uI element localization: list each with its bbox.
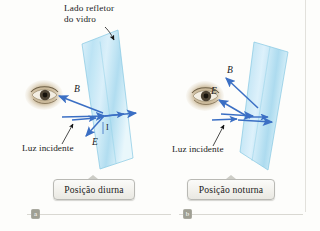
- caption-plate-panel-b: Posição noturna: [187, 179, 275, 200]
- incident-light-label-panel-b: Luz incidente: [172, 144, 224, 154]
- caption-text-panel-b: Posição noturna: [199, 184, 264, 195]
- panel-badge-b: b: [183, 209, 192, 219]
- ray-label-b-panel-a: B: [74, 84, 80, 94]
- eye-illustration-b: [186, 81, 224, 111]
- panel-rule-b: [179, 214, 303, 215]
- ray-label-b-panel-b: B: [227, 65, 233, 75]
- panel-a-glass: [82, 30, 133, 169]
- panel-badge-a-text: a: [34, 211, 37, 218]
- angle-label-panel-a: I: [106, 123, 109, 132]
- incident-leader-b: [213, 125, 224, 146]
- figure-root: Lado refletor do vidro B E I Luz inciden…: [0, 0, 320, 231]
- ray-label-e-panel-b: E: [211, 86, 217, 96]
- callout-title-reflective-side: Lado refletor do vidro: [64, 3, 146, 24]
- incident-leader-a: [62, 124, 73, 144]
- panel-b-glass: [240, 42, 288, 170]
- caption-text-panel-a: Posição diurna: [64, 184, 124, 195]
- panel-badge-b-text: b: [186, 211, 190, 218]
- page-gutter-rule: [305, 0, 306, 212]
- panel-badge-a: a: [31, 209, 40, 219]
- ray-label-e-panel-a: E: [92, 137, 98, 147]
- incident-light-label-panel-a: Luz incidente: [22, 143, 74, 153]
- caption-plate-panel-a: Posição diurna: [53, 179, 135, 200]
- panel-rule-a: [27, 214, 171, 215]
- eye-illustration-a: [25, 80, 63, 110]
